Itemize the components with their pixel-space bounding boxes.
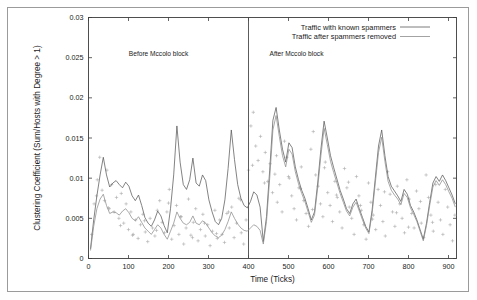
legend-label-2: Traffic after spammers removed: [292, 32, 396, 41]
y-tick-label: 0: [80, 254, 84, 263]
x-tick-label: 300: [203, 262, 215, 271]
y-tick-label: 0.03: [70, 13, 84, 22]
x-tick-label: 900: [443, 262, 455, 271]
y-tick-label: 0.02: [70, 93, 84, 102]
x-tick-label: 0: [87, 262, 91, 271]
x-axis-title: Time (Ticks): [250, 275, 295, 284]
y-tick-label: 0.025: [66, 53, 84, 62]
x-tick-label: 600: [323, 262, 335, 271]
x-tick-label: 200: [163, 262, 175, 271]
y-tick-label: 0.01: [70, 174, 84, 183]
y-tick-label: 0.005: [66, 214, 84, 223]
x-tick-label: 400: [243, 262, 255, 271]
chart-figure: 010020030040050060070080090000.0050.010.…: [0, 0, 477, 300]
figure-page: 010020030040050060070080090000.0050.010.…: [0, 0, 477, 300]
annotation-after-block: After Mccolo block: [270, 50, 325, 57]
clustering-coefficient-chart: 010020030040050060070080090000.0050.010.…: [0, 0, 477, 300]
y-axis-title: Clustering Coefficient (Sum/Hosts with D…: [33, 45, 42, 231]
y-tick-label: 0.015: [66, 134, 84, 143]
x-tick-label: 500: [283, 262, 295, 271]
annotation-before-block: Before Mccolo block: [129, 50, 189, 57]
x-tick-label: 700: [363, 262, 375, 271]
x-tick-label: 800: [403, 262, 415, 271]
x-tick-label: 100: [123, 262, 135, 271]
legend-label-1: Traffic with known spammers: [301, 23, 397, 32]
